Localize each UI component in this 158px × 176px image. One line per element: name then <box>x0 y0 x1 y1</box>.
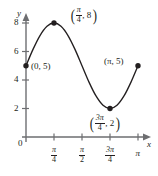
x-axis-label: x <box>147 140 151 149</box>
x-tick-label-3pi-over-4: 3π 4 <box>105 145 115 165</box>
x-tick-pi-over-2-numerator: π <box>79 146 85 154</box>
close-paren: ) <box>115 117 119 131</box>
x-tick-3pi-over-4-numerator: 3π <box>105 146 115 154</box>
trough-x-denominator: 4 <box>95 124 105 132</box>
y-tick-label-8: 8 <box>14 18 19 27</box>
x-tick-label-pi-over-2: π 2 <box>79 145 85 165</box>
x-tick-pi-over-4-denominator: 4 <box>51 156 57 164</box>
x-tick-label-pi-over-4: π 4 <box>51 145 57 165</box>
x-tick-3pi-over-4-denominator: 4 <box>105 156 115 164</box>
open-paren: ( <box>71 9 75 23</box>
x-tick-pi-over-4-numerator: π <box>51 146 57 154</box>
x-tick-label-pi: π <box>136 149 141 158</box>
data-point-3pi-over-4-2 <box>107 106 112 111</box>
open-paren: ( <box>90 117 94 131</box>
point-label-0-5: (0, 5) <box>31 62 51 71</box>
data-point-0-5 <box>23 63 28 68</box>
close-paren: ) <box>92 9 96 23</box>
point-label-pi-over-4-8: ( π 4 , 8 ) <box>70 6 97 25</box>
sinusoid-figure: y x 0 8 6 4 2 π 4 π 2 3π 4 π (0, 5) (π, … <box>0 0 158 176</box>
y-tick-label-6: 6 <box>14 47 19 56</box>
origin-label: 0 <box>18 139 23 148</box>
y-tick-label-2: 2 <box>14 104 19 113</box>
data-point-pi-5 <box>135 63 140 68</box>
y-tick-label-4: 4 <box>14 75 19 84</box>
point-label-pi-5: (π, 5) <box>104 57 124 66</box>
trough-y-value: , 2 <box>105 119 115 128</box>
trough-x-numerator: 3π <box>95 114 105 122</box>
y-axis-arrowhead <box>23 13 30 21</box>
x-tick-pi-over-2-denominator: 2 <box>79 156 85 164</box>
point-label-3pi-over-4-2: ( 3π 4 , 2 ) <box>89 114 120 133</box>
data-point-pi-over-4-8 <box>51 20 56 25</box>
peak-y-value: , 8 <box>82 11 92 20</box>
